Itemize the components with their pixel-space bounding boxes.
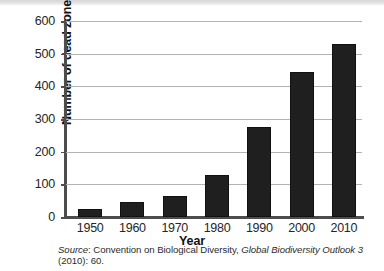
x-axis-tick-label: 2010 xyxy=(322,221,366,235)
bar xyxy=(332,44,356,217)
source-note-title: Global Biodiversity Outlook 3 xyxy=(241,244,363,255)
bar xyxy=(120,202,144,217)
gridline xyxy=(66,119,362,120)
source-note-label: Source xyxy=(58,244,88,255)
x-axis-tick-label: 2000 xyxy=(280,221,324,235)
bar-chart-figure: Number of dead zones 0100200300400500600… xyxy=(0,0,384,271)
y-axis-tick-mark xyxy=(61,217,66,219)
bar xyxy=(290,72,314,217)
gridline xyxy=(66,86,362,87)
y-axis-tick-label: 0 xyxy=(15,211,55,223)
source-note: Source: Convention on Biological Diversi… xyxy=(58,244,384,267)
y-axis-tick-label: 100 xyxy=(15,178,55,190)
bar xyxy=(247,127,271,217)
bar xyxy=(205,175,229,217)
x-axis-tick-label: 1980 xyxy=(195,221,239,235)
x-axis-tick-label: 1950 xyxy=(68,221,112,235)
y-axis-tick-label: 400 xyxy=(15,80,55,92)
bar xyxy=(78,209,102,217)
y-axis-tick-label: 600 xyxy=(15,15,55,27)
x-axis-tick-label: 1970 xyxy=(153,221,197,235)
y-axis-tick-label: 200 xyxy=(15,146,55,158)
gridline xyxy=(66,54,362,55)
source-note-publisher: Convention on Biological Diversity, xyxy=(93,244,241,255)
bar xyxy=(163,196,187,217)
source-note-citation: (2010): 60. xyxy=(58,255,104,266)
x-axis-tick-label: 1960 xyxy=(110,221,154,235)
x-axis-tick-label: 1990 xyxy=(237,221,281,235)
gridline xyxy=(66,152,362,153)
plot-area xyxy=(66,21,362,217)
y-axis-tick-label: 300 xyxy=(15,113,55,125)
y-axis-tick-label: 500 xyxy=(15,48,55,60)
gridline xyxy=(66,21,362,22)
